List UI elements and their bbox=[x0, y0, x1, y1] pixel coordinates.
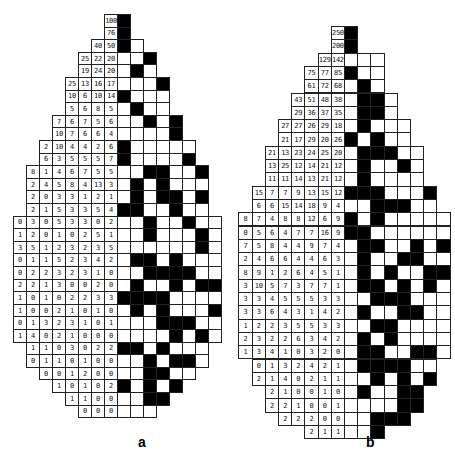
value-cell: 0 bbox=[104, 266, 118, 280]
value-cell: 0 bbox=[13, 253, 27, 267]
value-cell: 36 bbox=[304, 106, 318, 120]
white-cell bbox=[130, 77, 144, 91]
value-cell: 7 bbox=[65, 127, 79, 141]
black-cell bbox=[156, 165, 170, 179]
value-cell: 1 bbox=[291, 398, 305, 412]
black-cell bbox=[344, 186, 358, 200]
value-cell: 13 bbox=[91, 178, 105, 192]
value-cell: 2 bbox=[291, 359, 305, 373]
value-cell: 4 bbox=[265, 345, 279, 359]
value-cell: 5 bbox=[78, 153, 92, 167]
white-cell bbox=[370, 385, 384, 399]
white-cell bbox=[143, 304, 157, 318]
white-cell bbox=[130, 140, 144, 154]
value-cell: 0 bbox=[39, 367, 53, 381]
black-cell bbox=[370, 359, 384, 373]
value-cell: 1 bbox=[39, 165, 53, 179]
value-cell: 0 bbox=[39, 228, 53, 242]
white-cell bbox=[195, 291, 209, 305]
black-cell bbox=[423, 265, 437, 279]
black-cell bbox=[370, 186, 384, 200]
value-cell: 6 bbox=[265, 226, 279, 240]
value-cell: 1 bbox=[52, 379, 66, 393]
value-cell: 3 bbox=[238, 292, 252, 306]
value-cell: 6 bbox=[78, 102, 92, 116]
value-cell: 0 bbox=[39, 190, 53, 204]
black-cell bbox=[156, 178, 170, 192]
black-cell bbox=[370, 106, 384, 120]
white-cell bbox=[143, 405, 157, 419]
black-cell bbox=[156, 367, 170, 381]
value-cell: 2 bbox=[265, 398, 279, 412]
value-cell: 5 bbox=[278, 292, 292, 306]
value-cell: 0 bbox=[291, 372, 305, 386]
white-cell bbox=[169, 241, 183, 255]
value-cell: 12 bbox=[331, 172, 345, 186]
value-cell: 3 bbox=[291, 305, 305, 319]
black-cell bbox=[344, 132, 358, 146]
value-cell: 4 bbox=[26, 329, 40, 343]
white-cell bbox=[208, 329, 222, 343]
value-cell: 2 bbox=[78, 291, 92, 305]
value-cell: 13 bbox=[304, 186, 318, 200]
value-cell: 1 bbox=[318, 425, 332, 439]
black-cell bbox=[357, 93, 371, 107]
value-cell: 4 bbox=[291, 239, 305, 253]
white-cell bbox=[130, 90, 144, 104]
white-cell bbox=[410, 186, 424, 200]
value-cell: 15 bbox=[318, 186, 332, 200]
value-cell: 22 bbox=[91, 52, 105, 66]
white-cell bbox=[117, 304, 131, 318]
white-cell bbox=[169, 304, 183, 318]
white-cell bbox=[436, 252, 450, 266]
value-cell: 3 bbox=[252, 305, 266, 319]
white-cell bbox=[130, 392, 144, 406]
value-cell: 51 bbox=[304, 93, 318, 107]
black-cell bbox=[169, 127, 183, 141]
value-cell: 1 bbox=[238, 319, 252, 333]
black-cell bbox=[156, 291, 170, 305]
black-cell bbox=[117, 203, 131, 217]
white-cell bbox=[344, 425, 358, 439]
white-cell bbox=[344, 332, 358, 346]
value-cell: 1 bbox=[39, 291, 53, 305]
white-cell bbox=[117, 253, 131, 267]
value-cell: 25 bbox=[278, 159, 292, 173]
value-cell: 8 bbox=[65, 178, 79, 192]
white-cell bbox=[117, 165, 131, 179]
value-cell: 4 bbox=[304, 252, 318, 266]
value-cell: 0 bbox=[104, 405, 118, 419]
value-cell: 0 bbox=[318, 398, 332, 412]
value-cell: 3 bbox=[104, 178, 118, 192]
value-cell: 3 bbox=[52, 153, 66, 167]
value-cell: 0 bbox=[78, 405, 92, 419]
white-cell bbox=[397, 332, 411, 346]
value-cell: 77 bbox=[318, 66, 332, 80]
black-cell bbox=[357, 359, 371, 373]
value-cell: 1 bbox=[13, 291, 27, 305]
value-cell: 0 bbox=[13, 316, 27, 330]
white-cell bbox=[169, 153, 183, 167]
value-cell: 1 bbox=[65, 392, 79, 406]
value-cell: 5 bbox=[252, 226, 266, 240]
value-cell: 0 bbox=[13, 266, 27, 280]
black-cell bbox=[344, 39, 358, 53]
white-cell bbox=[182, 165, 196, 179]
value-cell: 0 bbox=[26, 354, 40, 368]
white-cell bbox=[344, 106, 358, 120]
value-cell: 4 bbox=[318, 332, 332, 346]
value-cell: 3 bbox=[104, 291, 118, 305]
white-cell bbox=[410, 159, 424, 173]
value-cell: 3 bbox=[238, 279, 252, 293]
value-cell: 0 bbox=[78, 304, 92, 318]
value-cell: 4 bbox=[52, 165, 66, 179]
value-cell: 0 bbox=[26, 291, 40, 305]
value-cell: 19 bbox=[78, 64, 92, 78]
white-cell bbox=[423, 332, 437, 346]
black-cell bbox=[370, 345, 384, 359]
value-cell: 2 bbox=[52, 304, 66, 318]
value-cell: 7 bbox=[318, 279, 332, 293]
white-cell bbox=[117, 52, 131, 66]
white-cell bbox=[143, 279, 157, 293]
value-cell: 1 bbox=[304, 305, 318, 319]
